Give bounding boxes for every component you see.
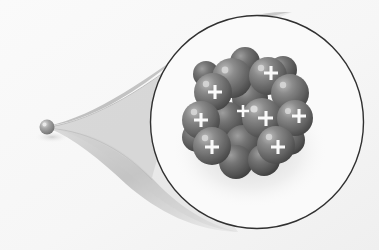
atom-specular-highlight	[43, 123, 47, 127]
magnified-view-circle[interactable]	[151, 16, 364, 229]
specular-highlight	[266, 134, 272, 140]
specular-highlight	[202, 135, 208, 141]
specular-highlight	[285, 108, 291, 114]
specular-highlight	[191, 109, 197, 115]
specular-highlight	[258, 65, 264, 71]
specular-highlight	[280, 82, 286, 88]
proton	[257, 126, 295, 164]
specular-highlight	[222, 67, 229, 74]
specular-highlight	[203, 81, 209, 87]
nucleus-illustration	[0, 0, 379, 250]
specular-highlight	[250, 105, 257, 112]
atom-sphere	[40, 120, 55, 135]
figure-canvas: Atomic nucleus magnification diagram ato…	[0, 0, 379, 250]
atom-shadow	[34, 131, 70, 143]
